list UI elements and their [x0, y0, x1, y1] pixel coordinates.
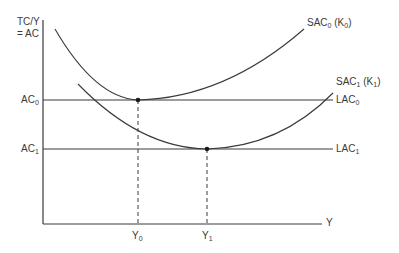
y-axis-label-line1: TC/Y [17, 17, 40, 27]
ac1-label: AC1 [21, 144, 39, 154]
lac0-label: LAC0 [336, 95, 359, 105]
sac0-curve [55, 29, 304, 100]
sac1-curve [78, 84, 333, 149]
y1-label: Y1 [202, 231, 213, 241]
sac0-label: SAC0 (K0) [307, 18, 352, 28]
y0-label: Y0 [132, 231, 143, 241]
x-axis-label: Y [326, 218, 333, 228]
y-axis-label-line2: = AC [17, 29, 39, 39]
cost-curves-diagram: TC/Y = AC Y AC0 AC1 Y0 Y1 SAC0 (K0) SAC1… [0, 0, 399, 253]
ac0-label: AC0 [21, 95, 39, 105]
sac1-label: SAC1 (K1) [336, 77, 381, 87]
lac1-label: LAC1 [336, 144, 359, 154]
sac0-min-point [136, 98, 141, 103]
sac1-min-point [205, 147, 210, 152]
diagram-canvas [0, 0, 399, 253]
